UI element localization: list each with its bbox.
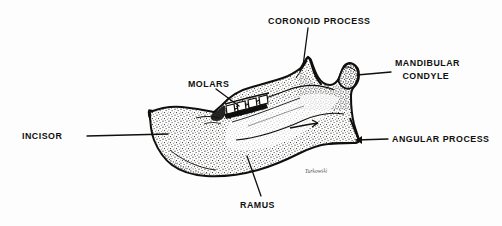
label-coronoid-process: CORONOID PROCESS	[268, 15, 370, 27]
mandible-diagram-figure: CORONOID PROCESS MANDIBULAR CONDYLE ANGU…	[0, 0, 502, 226]
mandibular-condyle-shape	[339, 64, 358, 89]
artist-signature: Turkowski	[305, 167, 327, 174]
mandible-illustration	[0, 0, 502, 226]
label-molars: MOLARS	[188, 78, 229, 90]
label-mandibular-condyle: MANDIBULAR CONDYLE	[395, 57, 460, 82]
label-ramus: RAMUS	[240, 199, 275, 211]
label-incisor: INCISOR	[22, 130, 62, 142]
label-mandibular-condyle-line2: CONDYLE	[395, 70, 460, 83]
leader-mandibular-condyle	[357, 72, 391, 75]
mandible-bone-body	[140, 50, 380, 190]
label-mandibular-condyle-line1: MANDIBULAR	[395, 57, 460, 70]
label-angular-process: ANGULAR PROCESS	[392, 133, 490, 145]
